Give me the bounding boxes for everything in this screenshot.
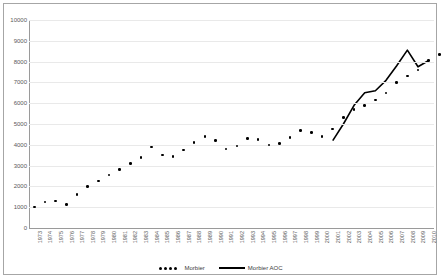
x-tick-label: 2002 bbox=[346, 231, 352, 243]
data-point bbox=[246, 137, 249, 140]
x-tick-label: 1995 bbox=[271, 231, 277, 243]
x-tick-label: 2006 bbox=[388, 231, 394, 243]
gridline bbox=[29, 124, 434, 125]
data-point bbox=[204, 135, 207, 138]
x-tick-label: 1979 bbox=[100, 231, 106, 243]
series-line bbox=[333, 50, 429, 140]
gridline bbox=[29, 103, 434, 104]
x-tick-label: 1992 bbox=[239, 231, 245, 243]
y-tick-label: 1000 bbox=[14, 204, 27, 210]
data-point bbox=[363, 104, 366, 107]
x-tick-label: 1993 bbox=[250, 231, 256, 243]
x-tick-label: 1975 bbox=[58, 231, 64, 243]
x-tick-label: 1984 bbox=[154, 231, 160, 243]
data-point bbox=[150, 146, 153, 149]
x-tick-label: 1994 bbox=[260, 231, 266, 243]
data-point bbox=[172, 155, 175, 158]
x-axis-line bbox=[29, 228, 434, 229]
data-point bbox=[214, 139, 217, 142]
x-tick-label: 2000 bbox=[324, 231, 330, 243]
solid-line-icon bbox=[219, 267, 245, 269]
x-axis-tick-labels: 1973197419751976197719781979198019811982… bbox=[29, 231, 434, 261]
x-tick-label: 2008 bbox=[410, 231, 416, 243]
x-tick-label: 1987 bbox=[186, 231, 192, 243]
gridline bbox=[29, 166, 434, 167]
data-point bbox=[395, 81, 398, 84]
y-tick-label: 7000 bbox=[14, 79, 27, 85]
data-point bbox=[310, 131, 313, 134]
chart-legend: Morbier Morbier AOC bbox=[0, 261, 442, 275]
x-tick-label: 1988 bbox=[196, 231, 202, 243]
data-point bbox=[427, 59, 430, 62]
y-tick-label: 3000 bbox=[14, 163, 27, 169]
data-point bbox=[129, 162, 132, 165]
x-tick-label: 2004 bbox=[367, 231, 373, 243]
x-tick-label: 1981 bbox=[122, 231, 128, 243]
legend-item-morbier: Morbier bbox=[159, 265, 204, 272]
y-tick-label: 9000 bbox=[14, 38, 27, 44]
gridline bbox=[29, 82, 434, 83]
y-tick-label: 4000 bbox=[14, 142, 27, 148]
x-tick-label: 1986 bbox=[175, 231, 181, 243]
y-tick-label: 8000 bbox=[14, 59, 27, 65]
data-point bbox=[86, 185, 89, 188]
data-point bbox=[118, 168, 121, 171]
chart-canvas: 0100020003000400050006000700080009000100… bbox=[0, 0, 442, 280]
x-tick-label: 1983 bbox=[143, 231, 149, 243]
gridline bbox=[29, 207, 434, 208]
x-tick-label: 2009 bbox=[420, 231, 426, 243]
x-tick-label: 2003 bbox=[356, 231, 362, 243]
x-tick-label: 2007 bbox=[399, 231, 405, 243]
x-tick-label: 2010 bbox=[431, 231, 437, 243]
x-tick-label: 1999 bbox=[314, 231, 320, 243]
plot-area bbox=[29, 20, 434, 228]
x-tick-label: 1990 bbox=[218, 231, 224, 243]
x-tick-label: 1980 bbox=[111, 231, 117, 243]
y-tick-label: 5000 bbox=[14, 121, 27, 127]
data-point bbox=[278, 142, 281, 145]
data-point bbox=[268, 144, 271, 147]
x-tick-label: 2001 bbox=[335, 231, 341, 243]
y-tick-label: 2000 bbox=[14, 183, 27, 189]
gridline bbox=[29, 186, 434, 187]
dotted-marker-icon bbox=[159, 267, 181, 270]
y-tick-label: 0 bbox=[24, 225, 27, 231]
gridline bbox=[29, 41, 434, 42]
gridline bbox=[29, 62, 434, 63]
legend-item-morbier-aoc: Morbier AOC bbox=[219, 265, 283, 272]
x-tick-label: 1996 bbox=[282, 231, 288, 243]
x-tick-label: 1991 bbox=[228, 231, 234, 243]
data-point bbox=[342, 116, 345, 119]
x-tick-label: 2005 bbox=[378, 231, 384, 243]
x-tick-label: 1976 bbox=[69, 231, 75, 243]
x-tick-label: 1982 bbox=[132, 231, 138, 243]
gridline bbox=[29, 145, 434, 146]
gridline bbox=[29, 20, 434, 21]
x-tick-label: 1997 bbox=[292, 231, 298, 243]
y-tick-label: 6000 bbox=[14, 100, 27, 106]
legend-label-morbier: Morbier bbox=[184, 265, 204, 272]
y-axis-tick-labels: 0100020003000400050006000700080009000100… bbox=[0, 0, 27, 240]
data-point bbox=[438, 53, 441, 56]
y-tick-label: 10000 bbox=[10, 17, 27, 23]
x-tick-label: 1977 bbox=[79, 231, 85, 243]
x-tick-label: 1974 bbox=[47, 231, 53, 243]
data-point bbox=[299, 129, 302, 132]
x-tick-label: 1989 bbox=[207, 231, 213, 243]
legend-label-morbier-aoc: Morbier AOC bbox=[248, 265, 283, 272]
x-tick-label: 1998 bbox=[303, 231, 309, 243]
data-point bbox=[140, 156, 143, 159]
data-point bbox=[65, 203, 68, 206]
x-tick-label: 1973 bbox=[37, 231, 43, 243]
x-tick-label: 1985 bbox=[164, 231, 170, 243]
x-tick-label: 1978 bbox=[90, 231, 96, 243]
